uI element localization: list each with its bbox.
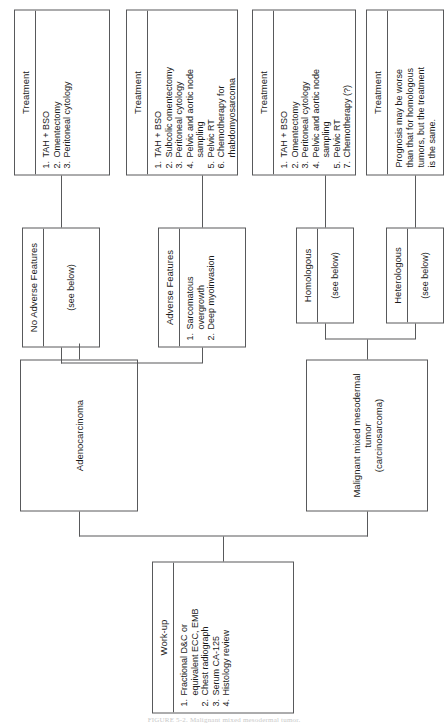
- list-item: 3.Peritoneal cytology: [62, 14, 73, 168]
- node-treatment-homologous[interactable]: Treatment 1.TAH + BSO2.Omentectomy3.Peri…: [252, 9, 356, 175]
- list-item-number: 1.: [185, 329, 196, 340]
- list-item: 2.Subcolic omentectomy: [164, 14, 175, 168]
- connector-to-no-adverse-features: [61, 347, 62, 363]
- list-item-number: 2.: [290, 157, 301, 168]
- list-item-number: 4.: [311, 157, 322, 168]
- connector-mmmt-out: [367, 339, 368, 359]
- list-item-number: 3.: [300, 157, 311, 168]
- list-item: 2.Omentectomy: [52, 14, 63, 168]
- list-item-number: 4.: [221, 695, 232, 706]
- node-workup-list: 1.Fractional D&C or equivalent ECC, EMB2…: [174, 562, 293, 712]
- node-treatment-adverse-list: 1.TAH + BSO2.Subcolic omentectomy3.Perit…: [148, 10, 238, 174]
- node-no-adverse-features-body: (see below): [44, 228, 99, 346]
- list-item-number: 1.: [279, 157, 290, 168]
- list-item-text: Pelvic and aortic node sampling: [185, 14, 206, 157]
- node-treatment-no-adverse[interactable]: Treatment 1.TAH + BSO2.Omentectomy3.Peri…: [14, 9, 110, 175]
- list-item-text: Omentectomy: [290, 14, 301, 157]
- node-adverse-features-title: Adverse Features: [159, 228, 180, 346]
- node-adenocarcinoma[interactable]: Adenocarcinoma: [20, 359, 138, 511]
- list-item-number: 6.: [216, 157, 227, 168]
- node-heterologous[interactable]: Heterologous (see below): [386, 227, 444, 323]
- figure-caption: FIGURE 5-2. Malignant mixed mesodermal t…: [0, 716, 448, 725]
- connector-heterologous-to-treatment: [415, 175, 416, 227]
- list-item-number: 3.: [174, 157, 185, 168]
- list-item-text: Serum CA-125: [211, 566, 222, 695]
- list-item: 5.Pelvic RT: [206, 14, 217, 168]
- list-item-text: Chemotherapy (?): [342, 14, 353, 157]
- list-item-number: 4.: [185, 157, 196, 168]
- node-homologous-title: Homologous: [297, 228, 318, 322]
- list-item-number: 2.: [206, 329, 217, 340]
- list-item-text: Peritoneal cytology: [300, 14, 311, 157]
- list-item-text: Pelvic RT: [206, 14, 217, 157]
- connector-to-adenocarcinoma: [79, 511, 80, 536]
- connector-mmmt-split: [325, 338, 415, 339]
- node-treatment-adverse[interactable]: Treatment 1.TAH + BSO2.Subcolic omentect…: [126, 9, 238, 175]
- connector-to-heterologous: [415, 323, 416, 339]
- list-item: 6.Chemotherapy for rhabdomyosarcoma: [216, 14, 237, 168]
- list-item-number: 5.: [332, 157, 343, 168]
- list-item: 5.Pelvic RT: [332, 14, 343, 168]
- list-item: 4.Pelvic and aortic node sampling: [311, 14, 332, 168]
- list-item-text: Peritoneal cytology: [62, 14, 73, 157]
- list-item-text: Omentectomy: [52, 14, 63, 157]
- list-item-text: TAH + BSO: [279, 14, 290, 157]
- list-item-number: 1.: [179, 695, 190, 706]
- list-item: 1.Fractional D&C or equivalent ECC, EMB: [179, 566, 200, 706]
- list-item: 1.TAH + BSO: [41, 14, 52, 168]
- node-treatment-adverse-title: Treatment: [127, 10, 148, 174]
- node-treatment-heterologous[interactable]: Treatment Prognosis may be worse than th…: [366, 9, 444, 175]
- connector-primary-trunk: [79, 535, 368, 536]
- node-workup-title: Work-up: [153, 562, 174, 712]
- list-item-number: 2.: [200, 695, 211, 706]
- list-item-number: 1.: [41, 157, 52, 168]
- node-mmmt-title: Malignant mixed mesodermal tumor (carcin…: [307, 360, 427, 510]
- connector-no-adverse-to-treatment: [61, 175, 62, 227]
- node-treatment-no-adverse-list: 1.TAH + BSO2.Omentectomy3.Peritoneal cyt…: [36, 10, 109, 174]
- list-item-text: Subcolic omentectomy: [164, 14, 175, 157]
- node-workup[interactable]: Work-up 1.Fractional D&C or equivalent E…: [152, 561, 294, 713]
- node-homologous[interactable]: Homologous (see below): [296, 227, 354, 323]
- list-item-number: 2.: [164, 157, 175, 168]
- list-item: 2.Omentectomy: [290, 14, 301, 168]
- list-item: 3.Peritoneal cytology: [300, 14, 311, 168]
- list-item-text: Histology review: [221, 566, 232, 695]
- list-item-number: 3.: [62, 157, 73, 168]
- list-item-number: 7.: [342, 157, 353, 168]
- list-item: 2.Deep myoinvasion: [206, 232, 217, 340]
- list-item-text: Chemotherapy for rhabdomyosarcoma: [216, 14, 237, 157]
- node-mmmt[interactable]: Malignant mixed mesodermal tumor (carcin…: [306, 359, 428, 511]
- list-item-text: Peritoneal cytology: [174, 14, 185, 157]
- node-homologous-body: (see below): [318, 228, 353, 322]
- list-item-text: Sarcomatous overgrowth: [185, 232, 206, 329]
- node-no-adverse-features[interactable]: No Adverse Features (see below): [22, 227, 100, 347]
- node-treatment-heterologous-body: Prognosis may be worse than that for hom…: [388, 10, 443, 174]
- list-item-text: Chest radiograph: [200, 566, 211, 695]
- node-adverse-features-list: 1.Sarcomatous overgrowth2.Deep myoinvasi…: [180, 228, 245, 346]
- list-item-text: Pelvic RT: [332, 14, 343, 157]
- connector-adenocarcinoma-out: [79, 343, 80, 359]
- node-adverse-features[interactable]: Adverse Features 1.Sarcomatous overgrowt…: [158, 227, 246, 347]
- list-item: 1.TAH + BSO: [279, 14, 290, 168]
- list-item-text: Deep myoinvasion: [206, 232, 217, 329]
- connector-to-mmmt: [367, 511, 368, 536]
- list-item: 2.Chest radiograph: [200, 566, 211, 706]
- node-treatment-homologous-list: 1.TAH + BSO2.Omentectomy3.Peritoneal cyt…: [274, 10, 356, 174]
- list-item: 3.Peritoneal cytology: [174, 14, 185, 168]
- node-no-adverse-features-title: No Adverse Features: [23, 228, 44, 346]
- list-item: 4.Histology review: [221, 566, 232, 706]
- list-item: 3.Serum CA-125: [211, 566, 222, 706]
- connector-homologous-to-treatment: [325, 175, 326, 227]
- node-treatment-no-adverse-title: Treatment: [15, 10, 36, 174]
- connector-to-adverse-features: [202, 347, 203, 363]
- list-item: 1.TAH + BSO: [153, 14, 164, 168]
- list-item-text: Pelvic and aortic node sampling: [311, 14, 332, 157]
- flowchart-canvas: Work-up 1.Fractional D&C or equivalent E…: [0, 0, 448, 727]
- node-treatment-heterologous-title: Treatment: [367, 10, 388, 174]
- list-item-number: 1.: [153, 157, 164, 168]
- list-item-text: TAH + BSO: [41, 14, 52, 157]
- list-item: 7.Chemotherapy (?): [342, 14, 353, 168]
- list-item-number: 2.: [52, 157, 63, 168]
- list-item-number: 3.: [211, 695, 222, 706]
- node-adenocarcinoma-title: Adenocarcinoma: [21, 360, 137, 510]
